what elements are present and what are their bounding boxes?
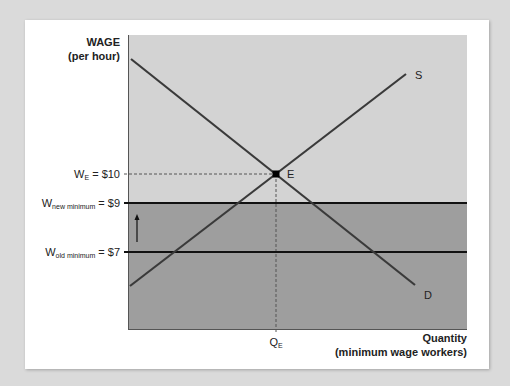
demand-label: D [424, 289, 432, 301]
new-minimum-tick-label: Wnew minimum= $9 [42, 197, 120, 210]
qe-tick-label: QE [269, 336, 283, 349]
equilibrium-point [273, 171, 280, 178]
x-axis-subtitle: (minimum wage workers) [335, 346, 467, 358]
y-axis-subtitle: (per hour) [68, 50, 120, 62]
x-axis-title: Quantity [422, 332, 467, 344]
equilibrium-label: E [287, 168, 294, 180]
supply-label: S [415, 69, 422, 81]
old-minimum-tick-label: Wold minimum= $7 [45, 246, 120, 259]
we-tick-label: WE= $10 [74, 168, 120, 181]
supply-demand-chart: S D E WAGE (per hour) Quantity (minimum … [0, 0, 510, 386]
upper-region [128, 35, 467, 203]
lower-shaded-region [128, 203, 467, 329]
y-axis-title: WAGE [86, 36, 120, 48]
